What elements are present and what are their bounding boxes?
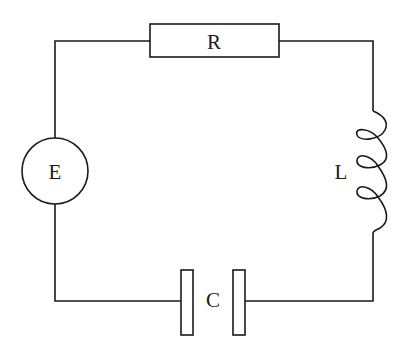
wire-top-right — [279, 41, 373, 111]
wire-top-left — [55, 41, 150, 138]
circuit-diagram: R E L C — [0, 0, 411, 348]
capacitor-plate-left — [181, 270, 193, 335]
wire-bottom-left — [55, 204, 181, 301]
capacitor-plate-right — [233, 270, 245, 335]
wire-right-bottom — [245, 233, 373, 301]
inductor-label: L — [335, 162, 348, 183]
inductor-coil — [357, 111, 387, 233]
resistor-label: R — [207, 32, 221, 53]
capacitor-label: C — [206, 290, 220, 311]
voltage-source-label: E — [49, 162, 62, 183]
